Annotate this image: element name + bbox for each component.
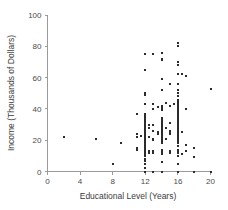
- x-tick-label: 16: [173, 177, 182, 186]
- data-point: [165, 102, 167, 104]
- data-point: [148, 124, 150, 126]
- data-point: [177, 155, 179, 157]
- data-point: [169, 133, 171, 135]
- data-point: [169, 105, 171, 107]
- data-point: [177, 45, 179, 47]
- data-point: [177, 89, 179, 91]
- data-point: [161, 153, 163, 155]
- data-point: [161, 89, 163, 91]
- data-point: [152, 103, 154, 105]
- data-point: [152, 53, 154, 55]
- data-point: [161, 52, 163, 54]
- x-tick-group: 048121620: [45, 172, 215, 186]
- y-axis: 020406080100: [28, 11, 47, 177]
- data-point: [152, 139, 154, 141]
- y-tick-label: 100: [28, 11, 42, 20]
- data-point: [185, 108, 187, 110]
- data-point: [161, 171, 163, 173]
- data-point: [144, 69, 146, 71]
- y-axis-title: Income (Thousands of Dollars): [6, 35, 16, 151]
- data-point: [144, 160, 146, 162]
- data-point: [177, 152, 179, 154]
- data-point: [140, 135, 142, 137]
- data-point: [177, 171, 179, 173]
- data-point: [210, 171, 212, 173]
- data-point: [136, 133, 138, 135]
- data-point: [177, 92, 179, 94]
- data-point: [157, 106, 159, 108]
- data-point: [144, 171, 146, 173]
- data-point: [169, 83, 171, 85]
- data-point: [181, 131, 183, 133]
- data-point: [177, 83, 179, 85]
- plot-canvas: 020406080100 048121620 Educational Level…: [0, 0, 228, 210]
- data-point: [193, 156, 195, 158]
- data-point: [193, 171, 195, 173]
- data-point: [148, 127, 150, 129]
- data-point: [112, 163, 114, 165]
- data-point: [177, 163, 179, 165]
- data-point: [144, 163, 146, 165]
- data-point: [144, 53, 146, 55]
- data-point: [177, 95, 179, 97]
- x-tick-label: 12: [141, 177, 150, 186]
- data-point: [181, 73, 183, 75]
- data-point: [144, 167, 146, 169]
- data-point: [161, 161, 163, 163]
- data-point: [136, 136, 138, 138]
- data-point: [152, 171, 154, 173]
- data-point: [152, 108, 154, 110]
- y-tick-label: 60: [33, 74, 42, 83]
- data-point: [177, 64, 179, 66]
- data-point: [177, 142, 179, 144]
- data-point: [152, 124, 154, 126]
- data-point: [161, 109, 163, 111]
- data-point: [136, 149, 138, 151]
- data-point: [152, 152, 154, 154]
- x-axis: 048121620: [45, 172, 215, 186]
- data-point: [185, 75, 187, 77]
- data-point: [181, 153, 183, 155]
- data-point: [185, 144, 187, 146]
- data-point: [177, 73, 179, 75]
- data-point-layer: [63, 42, 212, 172]
- data-point: [136, 113, 138, 115]
- y-tick-label: 40: [33, 105, 42, 114]
- data-point: [161, 142, 163, 144]
- x-tick-label: 20: [206, 177, 215, 186]
- y-tick-group: 020406080100: [28, 11, 47, 177]
- y-tick-label: 20: [33, 136, 42, 145]
- y-tick-label: 0: [37, 168, 42, 177]
- x-axis-title: Educational Level (Years): [80, 191, 177, 201]
- data-point: [63, 136, 65, 138]
- x-tick-label: 4: [78, 177, 83, 186]
- data-point: [161, 59, 163, 61]
- x-tick-label: 0: [45, 177, 50, 186]
- data-point: [120, 142, 122, 144]
- data-point: [177, 61, 179, 63]
- data-point: [95, 138, 97, 140]
- scatter-plot-figure: 020406080100 048121620 Educational Level…: [0, 0, 228, 210]
- data-point: [185, 150, 187, 152]
- data-point: [165, 138, 167, 140]
- data-point: [169, 122, 171, 124]
- data-point: [173, 103, 175, 105]
- y-tick-label: 80: [33, 42, 42, 51]
- data-point: [177, 42, 179, 44]
- data-point: [144, 103, 146, 105]
- data-point: [193, 147, 195, 149]
- data-point: [144, 155, 146, 157]
- data-point: [177, 145, 179, 147]
- data-point: [161, 78, 163, 80]
- data-point: [152, 130, 154, 132]
- data-point: [157, 133, 159, 135]
- data-point: [169, 152, 171, 154]
- data-point: [148, 152, 150, 154]
- data-point: [210, 88, 212, 90]
- data-point: [165, 127, 167, 129]
- x-tick-label: 8: [110, 177, 115, 186]
- data-point: [144, 94, 146, 96]
- data-point: [148, 136, 150, 138]
